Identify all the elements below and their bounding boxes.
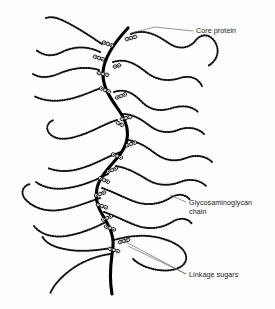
proteoglycan-figure: Core proteinGlycosaminoglycanchainLinkag… bbox=[0, 0, 275, 309]
label-core-protein: Core protein bbox=[196, 26, 236, 35]
label-line: Linkage sugars bbox=[189, 270, 239, 279]
diagram-canvas: Core proteinGlycosaminoglycanchainLinkag… bbox=[0, 0, 275, 309]
label-line: Core protein bbox=[196, 26, 236, 35]
label-line: chain bbox=[189, 207, 206, 216]
label-line: Glycosaminoglycan bbox=[189, 198, 252, 207]
label-linkage-sugars: Linkage sugars bbox=[189, 270, 239, 279]
